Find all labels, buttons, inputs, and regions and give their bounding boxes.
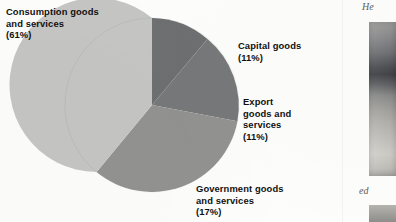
pie-label-consumption: Consumption goods and services (61%): [6, 6, 130, 41]
scanned-page: Consumption goods and services (61%) Cap…: [0, 0, 396, 222]
bleed-caption-top: He: [362, 1, 374, 12]
pie-label-export: Export goods and services (11%): [243, 96, 321, 142]
bleed-caption-bottom: ed: [359, 185, 368, 196]
pie-label-capital: Capital goods (11%): [238, 40, 338, 63]
adjacent-page-bleed: He ed: [340, 0, 396, 222]
page-gutter-divider: [342, 0, 343, 222]
bleed-photograph: [369, 22, 396, 176]
pie-chart-figure: Consumption goods and services (61%) Cap…: [0, 0, 340, 222]
bleed-photograph-secondary: [369, 205, 396, 222]
pie-label-government: Government goods and services (17%): [196, 183, 326, 218]
